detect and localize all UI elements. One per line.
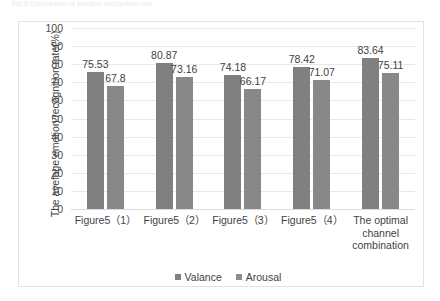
y-axis-tick: 20 <box>51 168 63 178</box>
bar-value-label: 78.42 <box>289 54 315 65</box>
legend-label: Valance <box>185 271 222 283</box>
bar-arousal[interactable]: 75.11 <box>382 73 399 209</box>
y-axis-tick: 40 <box>51 132 63 142</box>
y-axis-tick: 90 <box>51 41 63 51</box>
legend-item-arousal[interactable]: Arousal <box>236 271 282 283</box>
bar-value-label: 67.8 <box>105 73 125 84</box>
bar-pair: 83.6475.11 <box>346 28 415 209</box>
bar-group: 83.6475.11 <box>346 28 415 209</box>
y-axis-tick: 0 <box>57 204 63 214</box>
chart-legend: ValanceArousal <box>41 271 415 283</box>
plot-area: 75.5367.880.8773.1674.1866.1778.4271.078… <box>71 28 415 209</box>
bar-groups: 75.5367.880.8773.1674.1866.1778.4271.078… <box>71 28 415 209</box>
y-axis-tick-labels: 1009080706050403020100 <box>41 28 67 209</box>
y-axis-tick: 100 <box>45 23 63 33</box>
bar-arousal[interactable]: 71.07 <box>313 80 330 209</box>
legend-swatch-icon <box>236 274 242 280</box>
bar-arousal[interactable]: 73.16 <box>176 77 193 209</box>
y-axis-tick: 50 <box>51 114 63 124</box>
legend-swatch-icon <box>175 274 181 280</box>
bar-value-label: 73.16 <box>171 64 197 75</box>
y-axis-tick: 70 <box>51 77 63 87</box>
x-axis-tick: Figure5（2） <box>140 214 209 252</box>
bar-valance[interactable]: 74.18 <box>224 75 241 209</box>
x-axis-tick-labels: Figure5（1）Figure5（2）Figure5（3）Figure5（4）… <box>71 214 415 252</box>
bar-value-label: 74.18 <box>220 62 246 73</box>
y-axis-tick: 30 <box>51 150 63 160</box>
bar-value-label: 80.87 <box>151 50 177 61</box>
bar-pair: 80.8773.16 <box>140 28 209 209</box>
bar-group: 75.5367.8 <box>71 28 140 209</box>
bar-value-label: 75.53 <box>82 59 108 70</box>
axis-baseline <box>71 209 415 210</box>
bar-pair: 78.4271.07 <box>277 28 346 209</box>
bar-group: 74.1866.17 <box>209 28 278 209</box>
y-axis-tick: 60 <box>51 95 63 105</box>
x-axis-tick: Figure5（3） <box>209 214 278 252</box>
bar-valance[interactable]: 78.42 <box>293 67 310 209</box>
bar-value-label: 66.17 <box>240 76 266 87</box>
bar-valance[interactable]: 75.53 <box>87 72 104 209</box>
chart-container: The avefage emotion recognition rate(%) … <box>18 21 424 287</box>
y-axis-tick: 10 <box>51 186 63 196</box>
bar-valance[interactable]: 83.64 <box>362 58 379 209</box>
bar-value-label: 83.64 <box>357 45 383 56</box>
clipped-figure-caption: Fig.6 Comparison of emotion recognition … <box>12 0 312 7</box>
bar-group: 78.4271.07 <box>277 28 346 209</box>
x-axis-tick: Figure5（1） <box>71 214 140 252</box>
x-axis-tick: Figure5（4） <box>277 214 346 252</box>
plot-area-wrapper: 1009080706050403020100 75.5367.880.8773.… <box>41 28 415 286</box>
bar-valance[interactable]: 80.87 <box>156 63 173 209</box>
bar-arousal[interactable]: 67.8 <box>107 86 124 209</box>
bar-group: 80.8773.16 <box>140 28 209 209</box>
bar-pair: 75.5367.8 <box>71 28 140 209</box>
legend-item-valance[interactable]: Valance <box>175 271 222 283</box>
legend-label: Arousal <box>246 271 282 283</box>
x-axis-tick: The optimal channel combination <box>346 214 415 252</box>
y-axis-tick: 80 <box>51 59 63 69</box>
bar-value-label: 71.07 <box>309 67 335 78</box>
bar-value-label: 75.11 <box>378 60 404 71</box>
bar-pair: 74.1866.17 <box>209 28 278 209</box>
bar-arousal[interactable]: 66.17 <box>244 89 261 209</box>
